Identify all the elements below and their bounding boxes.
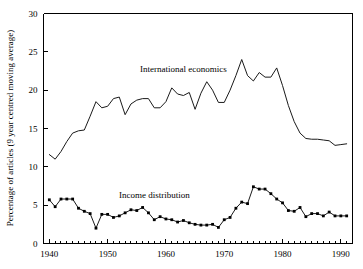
series-layer	[48, 60, 348, 230]
series-point-marker	[106, 213, 109, 216]
axes-layer	[44, 14, 353, 244]
series-point-marker	[299, 206, 302, 209]
series-point-marker	[89, 212, 92, 215]
series-point-marker	[252, 185, 255, 188]
series-point-marker	[130, 208, 133, 211]
series-point-marker	[345, 215, 348, 218]
series-point-marker	[141, 206, 144, 209]
series-point-marker	[188, 221, 191, 224]
y-tick-label: 15	[29, 124, 39, 134]
series-point-marker	[234, 207, 237, 210]
series-point-marker	[71, 198, 74, 201]
series-point-marker	[159, 215, 162, 218]
series-point-marker	[304, 215, 307, 218]
series-point-marker	[275, 198, 278, 201]
series-point-marker	[182, 219, 185, 222]
chart-container: 051015202530 194019501960197019801990 In…	[0, 0, 363, 269]
x-tick-label: 1940	[40, 249, 59, 259]
series-line	[49, 187, 346, 228]
series-point-marker	[65, 198, 68, 201]
series-point-marker	[223, 218, 226, 221]
series-point-marker	[165, 218, 168, 221]
series-point-marker	[170, 218, 173, 221]
series-point-marker	[281, 201, 284, 204]
series-point-marker	[205, 224, 208, 227]
series-point-marker	[293, 210, 296, 213]
y-tick-label: 0	[33, 239, 38, 249]
y-tick-label: 10	[29, 162, 39, 172]
series-point-marker	[54, 205, 57, 208]
series-point-marker	[200, 224, 203, 227]
series-line	[49, 60, 346, 160]
series-point-marker	[83, 210, 86, 213]
series-point-marker	[112, 216, 115, 219]
y-axis-title: Percentage of articles (9 year centred m…	[5, 30, 15, 227]
series-label-1: International economics	[140, 64, 227, 74]
y-tick-label: 25	[29, 47, 39, 57]
series-point-marker	[316, 212, 319, 215]
x-tick-label: 1980	[274, 249, 293, 259]
series-point-marker	[211, 223, 214, 226]
series-point-marker	[264, 188, 267, 191]
series-point-marker	[240, 201, 243, 204]
y-axis-tick-labels: 051015202530	[29, 9, 39, 249]
series-point-marker	[258, 188, 261, 191]
x-tick-label: 1970	[215, 249, 234, 259]
axis-frame-left-bottom	[44, 14, 353, 244]
series-point-marker	[246, 202, 249, 205]
x-axis-tick-labels: 194019501960197019801990	[40, 249, 350, 259]
series-point-marker	[95, 227, 98, 230]
series-point-marker	[287, 209, 290, 212]
series-point-marker	[176, 221, 179, 224]
series-2	[48, 185, 348, 229]
series-point-marker	[153, 218, 156, 221]
ticks-layer	[44, 14, 353, 244]
series-point-marker	[194, 223, 197, 226]
series-point-marker	[310, 212, 313, 215]
x-tick-label: 1960	[157, 249, 176, 259]
series-point-marker	[147, 211, 150, 214]
series-annotations: International economicsIncome distributi…	[119, 64, 227, 200]
series-point-marker	[60, 198, 63, 201]
series-point-marker	[124, 211, 127, 214]
series-point-marker	[118, 215, 121, 218]
x-tick-label: 1990	[332, 249, 351, 259]
series-point-marker	[339, 215, 342, 218]
line-chart: 051015202530 194019501960197019801990 In…	[0, 0, 363, 269]
series-point-marker	[48, 198, 51, 201]
y-tick-label: 5	[33, 200, 38, 210]
series-point-marker	[334, 215, 337, 218]
series-label-2: Income distribution	[119, 190, 190, 200]
series-point-marker	[217, 226, 220, 229]
series-point-marker	[135, 209, 138, 212]
y-tick-label: 30	[29, 9, 39, 19]
series-point-marker	[100, 213, 103, 216]
series-point-marker	[229, 216, 232, 219]
series-point-marker	[77, 207, 80, 210]
y-tick-label: 20	[29, 85, 39, 95]
axis-frame-top-right	[44, 14, 353, 244]
series-1	[49, 60, 346, 160]
series-point-marker	[322, 215, 325, 218]
series-point-marker	[328, 211, 331, 214]
series-point-marker	[269, 192, 272, 195]
x-tick-label: 1950	[99, 249, 118, 259]
